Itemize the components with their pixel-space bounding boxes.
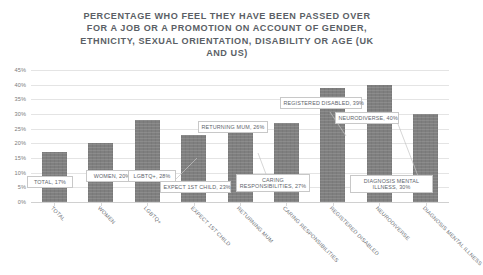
y-axis-tick-label: 10%	[15, 170, 27, 176]
y-axis-tick-label: 0%	[18, 199, 26, 205]
data-label: NEURODIVERSE, 40%	[335, 112, 399, 124]
x-axis-tick-label: RETURNING MUM	[236, 205, 275, 244]
x-axis-tick-label: WOMEN	[96, 205, 116, 225]
x-axis-tick-label: LGBTQ+	[143, 205, 163, 225]
data-label: TOTAL, 17%	[27, 176, 73, 188]
data-label: DIAGNOSIS MENTAL ILLNESS, 30%	[350, 175, 433, 193]
data-label: LGBTQ+, 28%	[128, 170, 176, 182]
data-label: EXPECT 1ST CHILD, 23%	[160, 181, 231, 193]
y-axis-tick-label: 40%	[15, 82, 27, 88]
y-axis-tick-label: 35%	[15, 96, 27, 102]
chart-title-line-3: ETHNICITY, SEXUAL ORIENTATION, DISABILIT…	[27, 35, 427, 47]
data-label: REGISTERED DISABLED, 39%	[280, 97, 362, 109]
x-axis-tick-label: DIAGNOSIS MENTAL ILLNESS	[422, 205, 483, 267]
data-label: CARING RESPONSIBILITIES, 27%	[236, 174, 310, 192]
chart-title-line-4: AND US)	[27, 47, 427, 59]
x-axis-tick-label: EXPECT 1ST CHILD	[189, 205, 231, 247]
y-axis-tick-label: 15%	[15, 155, 27, 161]
x-axis-tick-label: REGISTERED DISABLED	[329, 205, 381, 257]
x-axis-tick-label: TOTAL	[50, 205, 67, 222]
x-axis: TOTALWOMENLGBTQ+EXPECT 1ST CHILDRETURNIN…	[31, 203, 449, 273]
x-axis-tick-label: NEURODIVERSE	[375, 205, 411, 241]
y-axis: 45%40%35%30%25%20%15%10%5%0%	[0, 70, 29, 202]
chart-title-line-2: FOR A JOB OR A PROMOTION ON ACCOUNT OF G…	[27, 22, 427, 34]
chart-title-line-1: PERCENTAGE WHO FEEL THEY HAVE BEEN PASSE…	[27, 10, 427, 22]
chart-title: PERCENTAGE WHO FEEL THEY HAVE BEEN PASSE…	[27, 10, 427, 59]
bar[interactable]	[135, 120, 160, 202]
y-axis-tick-label: 5%	[18, 184, 26, 190]
y-axis-tick-label: 25%	[15, 126, 27, 132]
x-axis-tick-label: CARING RESPONSIBILITIES	[282, 205, 340, 263]
y-axis-tick-label: 20%	[15, 140, 27, 146]
data-label: RETURNING MUM, 26%	[198, 121, 268, 133]
y-axis-tick-label: 45%	[15, 67, 27, 73]
y-axis-tick-label: 30%	[15, 111, 27, 117]
